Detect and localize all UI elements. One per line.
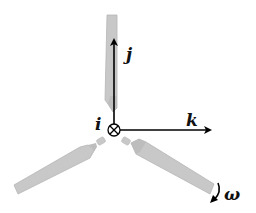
i-axis-into-page-icon: [108, 124, 120, 136]
j-axis-label: j: [123, 44, 133, 64]
lower-right-blade: [121, 136, 214, 194]
i-axis-label: i: [95, 114, 101, 134]
k-axis-label: k: [186, 110, 198, 130]
rotation-omega-label: ω: [224, 184, 240, 204]
top-blade: [105, 15, 117, 112]
lower-left-blade: [14, 136, 106, 194]
rotor-diagram: j k i ω: [0, 0, 256, 213]
